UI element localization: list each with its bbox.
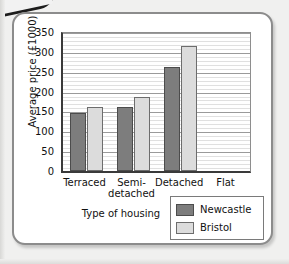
y-tick-100: 100 — [35, 126, 54, 137]
y-tick-250: 250 — [35, 66, 54, 77]
x-tick-semi-detached: Semi-detached — [108, 177, 155, 199]
page-bottom-edge — [0, 259, 289, 264]
y-tick-50: 50 — [41, 146, 54, 157]
bar-bristol-terraced — [87, 107, 103, 171]
bar-group-semi-detached — [110, 33, 157, 171]
bar-newcastle-detached — [164, 67, 180, 171]
legend-swatch-newcastle — [176, 204, 194, 216]
y-tick-150: 150 — [35, 106, 54, 117]
bar-series-container — [63, 33, 250, 171]
chart-legend: Newcastle Bristol — [170, 196, 264, 240]
y-tick-0: 0 — [48, 166, 54, 177]
legend-label-newcastle: Newcastle — [200, 204, 252, 215]
bar-newcastle-semi-detached — [117, 107, 133, 171]
bar-chart: Average price (£1000) 350300250200150100… — [14, 14, 271, 243]
y-tick-200: 200 — [35, 86, 54, 97]
page-left-edge — [0, 0, 5, 264]
bar-group-flat — [204, 33, 251, 171]
chart-card: Average price (£1000) 350300250200150100… — [12, 12, 273, 245]
x-tick-terraced: Terraced — [61, 177, 108, 188]
legend-item-bristol: Bristol — [176, 219, 258, 236]
legend-label-bristol: Bristol — [200, 222, 232, 233]
x-tick-detached: Detached — [155, 177, 202, 188]
bar-group-detached — [157, 33, 204, 171]
legend-item-newcastle: Newcastle — [176, 201, 258, 218]
y-axis-tick-labels: 350300250200150100500 — [14, 26, 58, 169]
y-tick-350: 350 — [35, 27, 54, 38]
bar-group-terraced — [63, 33, 110, 171]
x-tick-flat: Flat — [202, 177, 249, 188]
bar-newcastle-terraced — [70, 113, 86, 171]
x-axis-title: Type of housing — [56, 208, 186, 219]
bar-bristol-semi-detached — [134, 97, 150, 171]
bar-bristol-detached — [181, 46, 197, 171]
legend-swatch-bristol — [176, 222, 194, 234]
y-tick-300: 300 — [35, 46, 54, 57]
plot-area — [61, 32, 251, 173]
